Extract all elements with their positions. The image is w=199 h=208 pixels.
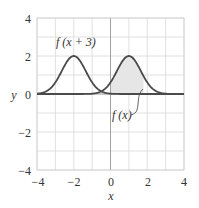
- x-axis-label: x: [107, 189, 114, 203]
- x-tick-label: −4: [32, 175, 45, 189]
- y-tick-label: −2: [18, 126, 31, 140]
- y-tick-label: 4: [25, 12, 31, 26]
- x-tick-label: −2: [68, 175, 81, 189]
- y-tick-label: −4: [18, 164, 31, 178]
- y-tick-label: 2: [25, 50, 31, 64]
- chart: 4 2 0 −2 −4 −4 −2 0 2 4 y x f (x + 3) f …: [0, 0, 199, 208]
- x-tick-label: 0: [108, 175, 114, 189]
- x-tick-label: 4: [181, 175, 187, 189]
- annotation-f-x: f (x): [112, 108, 132, 122]
- y-tick-label: 0: [25, 88, 31, 102]
- x-tick-label: 2: [145, 175, 151, 189]
- annotation-f-x-plus-3: f (x + 3): [56, 35, 96, 49]
- y-axis-label: y: [10, 88, 17, 102]
